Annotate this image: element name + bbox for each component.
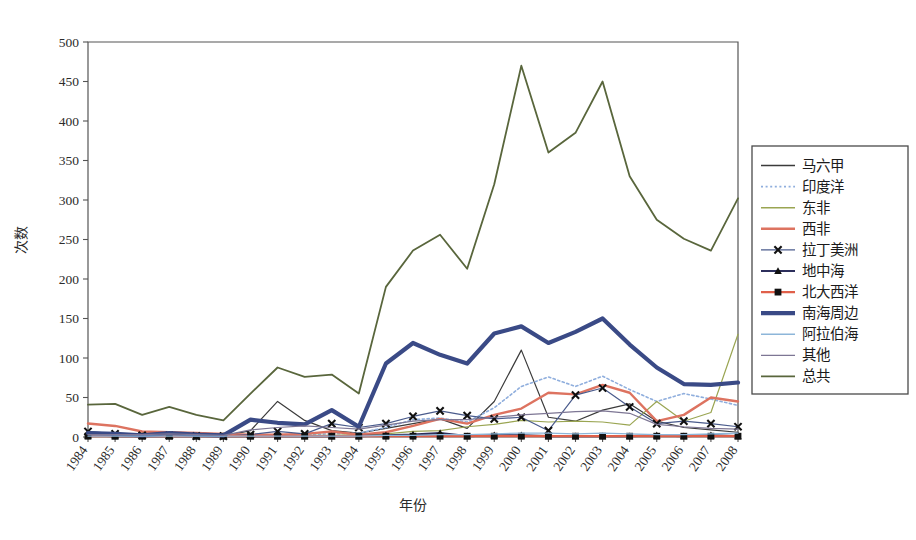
legend-label: 东非 xyxy=(802,200,830,216)
legend-label: 其他 xyxy=(802,347,830,363)
x-tick-label: 1999 xyxy=(469,443,497,474)
series-line xyxy=(88,385,738,435)
y-axis-title: 次数 xyxy=(13,226,29,254)
y-tick-label: 400 xyxy=(59,114,80,129)
x-tick-label: 1984 xyxy=(63,443,91,474)
legend-label: 印度洋 xyxy=(802,179,844,195)
x-tick-label: 1987 xyxy=(144,443,172,474)
x-tick-label: 1985 xyxy=(90,443,118,474)
y-tick-label: 300 xyxy=(59,193,80,208)
legend: 马六甲印度洋东非西非拉丁美洲地中海北大西洋南海周边阿拉伯海其他总共 xyxy=(752,146,908,394)
y-tick-label: 100 xyxy=(59,351,80,366)
x-tick-label: 2006 xyxy=(659,443,687,474)
series-marker xyxy=(437,433,444,440)
x-tick-label: 1992 xyxy=(279,443,307,474)
series-1 xyxy=(88,376,738,436)
chart-container: 050100150200250300350400450500次数19841985… xyxy=(0,0,916,540)
series-marker xyxy=(383,433,390,440)
series-0 xyxy=(88,350,738,436)
y-tick-label: 250 xyxy=(59,232,80,247)
series-marker xyxy=(680,433,687,440)
series-marker xyxy=(545,433,552,440)
x-tick-label: 1989 xyxy=(198,443,226,474)
legend-label: 拉丁美洲 xyxy=(802,242,858,258)
y-tick-label: 200 xyxy=(59,272,80,287)
y-tick-label: 150 xyxy=(59,311,80,326)
x-tick-label: 1990 xyxy=(225,443,253,474)
y-tick-label: 50 xyxy=(66,390,80,405)
x-tick-label: 1986 xyxy=(117,443,145,474)
series-marker xyxy=(735,433,742,440)
plot-frame xyxy=(88,42,738,437)
series-10 xyxy=(88,66,738,421)
legend-label: 西非 xyxy=(802,221,830,237)
series-marker xyxy=(653,433,660,440)
x-tick-label: 2005 xyxy=(631,443,659,474)
x-tick-label: 2004 xyxy=(604,443,632,474)
series-3 xyxy=(88,385,738,435)
series-line xyxy=(88,350,738,436)
x-tick-label: 2000 xyxy=(496,443,524,474)
x-tick-label: 1991 xyxy=(252,443,280,474)
series-marker xyxy=(464,433,471,440)
x-tick-label: 2008 xyxy=(713,443,741,474)
x-tick-label: 2007 xyxy=(686,443,714,474)
legend-label: 马六甲 xyxy=(802,158,844,174)
x-tick-label: 2002 xyxy=(550,443,578,474)
legend-label: 地中海 xyxy=(802,263,844,279)
series-line xyxy=(88,66,738,421)
legend-label: 阿拉伯海 xyxy=(802,326,858,342)
y-tick-label: 500 xyxy=(59,35,80,50)
x-tick-label: 1988 xyxy=(171,443,199,474)
x-tick-label: 1994 xyxy=(334,443,362,474)
line-chart: 050100150200250300350400450500次数19841985… xyxy=(0,0,916,540)
y-tick-label: 450 xyxy=(59,74,80,89)
series-marker xyxy=(410,433,417,440)
x-tick-label: 1997 xyxy=(415,443,443,474)
x-tick-label: 1998 xyxy=(442,443,470,474)
x-axis-title: 年份 xyxy=(399,497,427,513)
legend-label: 总共 xyxy=(802,368,830,384)
y-tick-label: 0 xyxy=(72,430,79,445)
series-marker xyxy=(775,289,782,296)
legend-label: 北大西洋 xyxy=(802,284,858,300)
x-tick-label: 1995 xyxy=(361,443,389,474)
series-line xyxy=(88,376,738,436)
series-marker xyxy=(518,433,525,440)
x-tick-label: 2003 xyxy=(577,443,605,474)
x-tick-label: 2001 xyxy=(523,443,551,474)
x-tick-label: 1993 xyxy=(306,443,334,474)
series-marker xyxy=(599,433,606,440)
legend-label: 南海周边 xyxy=(802,305,859,321)
x-tick-label: 1996 xyxy=(388,443,416,474)
y-tick-label: 350 xyxy=(59,153,80,168)
